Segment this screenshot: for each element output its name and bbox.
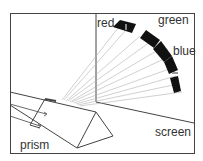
label-red: red xyxy=(97,17,114,29)
label-green: green xyxy=(158,14,189,26)
incident-rays xyxy=(10,104,47,128)
label-screen: screen xyxy=(155,126,191,138)
dispersed-rays xyxy=(62,28,182,106)
label-prism: prism xyxy=(20,139,49,151)
label-blue: blue xyxy=(173,45,196,57)
